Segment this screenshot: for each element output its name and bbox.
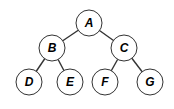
node-label: B	[48, 41, 57, 55]
tree-node-b: B	[39, 35, 65, 61]
tree-node-f: F	[92, 69, 118, 95]
node-label: D	[25, 75, 34, 89]
binary-tree-diagram: A B C D E F G	[0, 0, 174, 109]
tree-node-e: E	[57, 69, 83, 95]
tree-node-d: D	[16, 69, 42, 95]
node-label: A	[84, 16, 94, 30]
nodes: A B C D E F G	[16, 10, 163, 95]
node-label: E	[66, 75, 75, 89]
tree-node-g: G	[137, 69, 163, 95]
node-label: G	[145, 75, 154, 89]
node-label: F	[101, 75, 109, 89]
tree-node-c: C	[111, 35, 137, 61]
tree-node-a: A	[76, 10, 102, 36]
node-label: C	[120, 41, 129, 55]
